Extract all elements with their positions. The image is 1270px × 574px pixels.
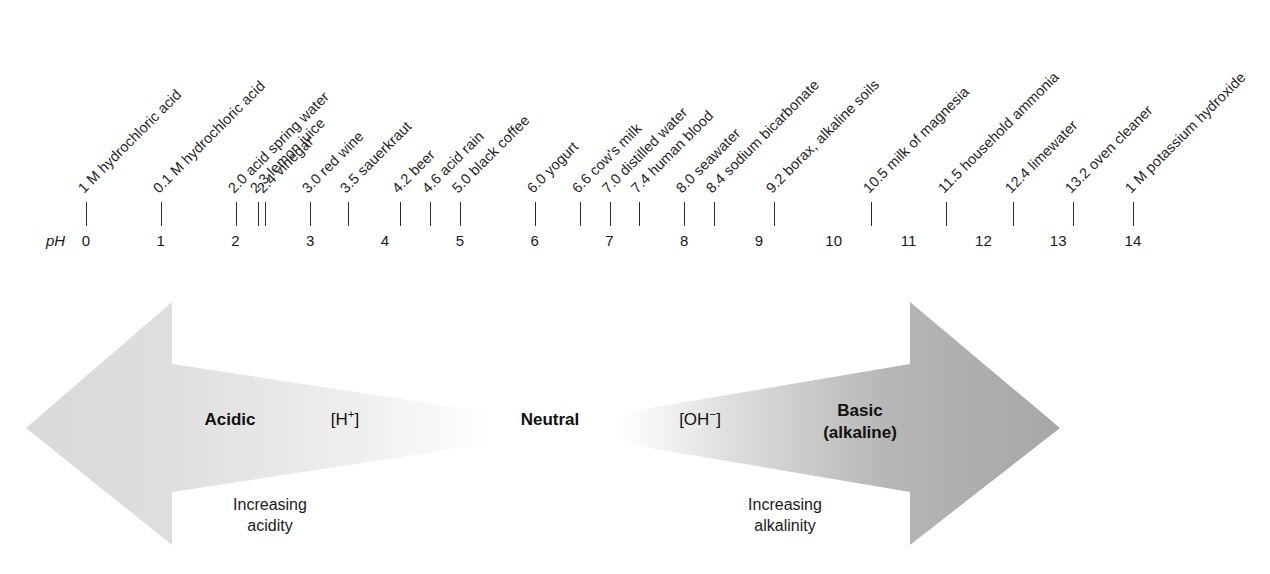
ph-scale-axis: pH 01234567891011121314 1 M hydrochloric… <box>0 0 1270 270</box>
axis-number: 3 <box>290 232 330 249</box>
substance-tick <box>161 202 162 226</box>
substance-tick <box>535 202 536 226</box>
substance-tick <box>1073 202 1074 226</box>
axis-number: 9 <box>739 232 779 249</box>
axis-number: 12 <box>963 232 1003 249</box>
substance-tick <box>348 202 349 226</box>
axis-number: 10 <box>814 232 854 249</box>
increasing-alkalinity-line2: alkalinity <box>754 517 815 534</box>
hydrogen-ion-label: [H+] <box>310 410 380 430</box>
substance-tick <box>430 202 431 226</box>
increasing-alkalinity-line1: Increasing <box>748 496 822 513</box>
axis-number: 14 <box>1113 232 1153 249</box>
substance-tick <box>580 202 581 226</box>
acid-base-arrow: Acidic [H+] Neutral [OH−] Basic (alkalin… <box>0 285 1270 574</box>
substance-tick <box>1133 202 1134 226</box>
substance-tick <box>265 202 266 226</box>
axis-number: 2 <box>216 232 256 249</box>
basic-label-line1: Basic <box>837 401 882 420</box>
basic-label-line2: (alkaline) <box>823 423 897 442</box>
substance-tick <box>460 202 461 226</box>
neutral-label: Neutral <box>500 410 600 430</box>
substance-tick <box>236 202 237 226</box>
increasing-acidity-caption: Increasing acidity <box>180 495 360 537</box>
substance-label: 11.5 household ammonia <box>935 69 1062 196</box>
substance-label: 1 M potassium hydroxide <box>1122 69 1249 196</box>
axis-number: 0 <box>66 232 106 249</box>
substance-tick <box>400 202 401 226</box>
substance-tick <box>714 202 715 226</box>
acidic-label: Acidic <box>185 410 275 430</box>
hydroxide-ion-label: [OH−] <box>660 410 740 430</box>
substance-tick <box>258 202 259 226</box>
substance-tick <box>310 202 311 226</box>
ph-scale-figure: pH 01234567891011121314 1 M hydrochloric… <box>0 0 1270 574</box>
axis-number: 5 <box>440 232 480 249</box>
increasing-alkalinity-caption: Increasing alkalinity <box>690 495 880 537</box>
substance-tick <box>86 202 87 226</box>
increasing-acidity-line2: acidity <box>247 517 292 534</box>
increasing-acidity-line1: Increasing <box>233 496 307 513</box>
substance-tick <box>639 202 640 226</box>
axis-number: 7 <box>590 232 630 249</box>
substance-tick <box>1013 202 1014 226</box>
substance-tick <box>610 202 611 226</box>
axis-number: 4 <box>365 232 405 249</box>
axis-number: 11 <box>889 232 929 249</box>
axis-number: 8 <box>664 232 704 249</box>
axis-number: 13 <box>1038 232 1078 249</box>
axis-number: 1 <box>141 232 181 249</box>
substance-tick <box>684 202 685 226</box>
substance-tick <box>774 202 775 226</box>
ph-axis-label: pH <box>46 232 65 249</box>
substance-tick <box>946 202 947 226</box>
substance-tick <box>871 202 872 226</box>
axis-number: 6 <box>515 232 555 249</box>
basic-label: Basic (alkaline) <box>790 400 930 444</box>
